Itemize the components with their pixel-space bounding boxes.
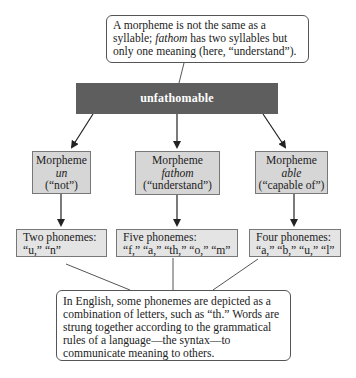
morpheme-title: Morpheme bbox=[33, 155, 90, 168]
phoneme-box-un: Two phonemes: “u,” “n” bbox=[16, 229, 107, 257]
bottom-callout-text: In English, some phonemes are depicted a… bbox=[63, 295, 279, 360]
phoneme-title: Two phonemes: bbox=[23, 232, 100, 245]
morpheme-box-un: Morpheme un (“not”) bbox=[32, 151, 91, 194]
phoneme-box-able: Four phonemes: “a,” “b,” “u,” “l” bbox=[249, 229, 341, 257]
top-callout: A morpheme is not the same as a syllable… bbox=[106, 15, 309, 63]
morpheme-title: Morpheme bbox=[256, 155, 327, 168]
phoneme-list: “f,” “a,” “th,” “o,” “m” bbox=[123, 245, 231, 258]
top-callout-italic-word: fathom bbox=[155, 32, 187, 45]
phoneme-title: Four phonemes: bbox=[256, 232, 334, 245]
morpheme-meaning: (“understand”) bbox=[136, 180, 219, 193]
root-word-label: unfathomable bbox=[140, 91, 214, 106]
morpheme-meaning: (“not”) bbox=[33, 180, 90, 193]
phoneme-title: Five phonemes: bbox=[123, 232, 231, 245]
root-word-box: unfathomable bbox=[76, 83, 278, 114]
bottom-callout: In English, some phonemes are depicted a… bbox=[56, 290, 291, 361]
phoneme-list: “a,” “b,” “u,” “l” bbox=[256, 245, 334, 258]
morpheme-title: Morpheme bbox=[136, 155, 219, 168]
morpheme-box-able: Morpheme able (“capable of”) bbox=[255, 151, 328, 194]
morpheme-box-fathom: Morpheme fathom (“understand”) bbox=[135, 151, 220, 195]
phoneme-list: “u,” “n” bbox=[23, 245, 100, 258]
morpheme-meaning: (“capable of”) bbox=[256, 180, 327, 193]
phoneme-box-fathom: Five phonemes: “f,” “a,” “th,” “o,” “m” bbox=[116, 229, 238, 257]
